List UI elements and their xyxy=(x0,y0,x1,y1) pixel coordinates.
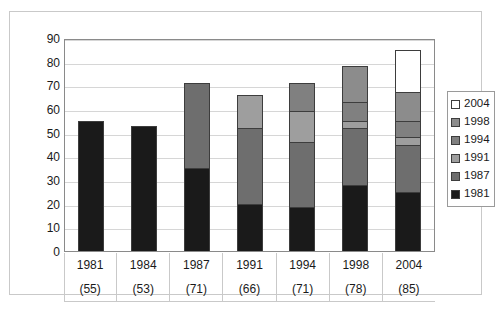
legend-label: 1994 xyxy=(464,134,490,146)
bar-segment[interactable] xyxy=(184,83,210,168)
bar-segment[interactable] xyxy=(237,128,263,204)
x-table-bottom-border xyxy=(64,301,435,302)
bar-cell xyxy=(223,40,276,251)
bar-segment[interactable] xyxy=(131,126,157,251)
x-axis-label: 1994 xyxy=(277,253,329,277)
x-axis-label: 1998 xyxy=(330,253,382,277)
bar-segment[interactable] xyxy=(289,142,315,207)
x-axis-total: (53) xyxy=(117,277,169,301)
bar-segment[interactable] xyxy=(395,92,421,120)
chart-frame: 9080706050403020100 1981(55)1984(53)1987… xyxy=(9,11,482,295)
y-axis-tick: 60 xyxy=(47,103,60,117)
bar-segment[interactable] xyxy=(289,111,315,142)
x-axis-cell: 1998(78) xyxy=(330,253,383,301)
bar-cell xyxy=(329,40,382,251)
bar-cell xyxy=(118,40,171,251)
legend-item[interactable]: 1994 xyxy=(451,132,491,148)
bar-segment[interactable] xyxy=(237,204,263,251)
chart-legend: 200419981994199119871981 xyxy=(447,91,495,207)
legend-label: 1991 xyxy=(464,152,490,164)
legend-item[interactable]: 1987 xyxy=(451,168,491,184)
stacked-bar[interactable] xyxy=(78,121,104,251)
legend-label: 1998 xyxy=(464,116,490,128)
stacked-bar[interactable] xyxy=(237,95,263,251)
y-axis-tick: 80 xyxy=(47,56,60,70)
y-axis-tick: 50 xyxy=(47,127,60,141)
bar-segment[interactable] xyxy=(342,121,368,128)
x-axis-label: 1984 xyxy=(117,253,169,277)
x-axis-cell: 1984(53) xyxy=(117,253,170,301)
legend-label: 1981 xyxy=(464,188,490,200)
x-axis-label: 1991 xyxy=(223,253,275,277)
stacked-bar[interactable] xyxy=(131,126,157,251)
x-axis-total: (78) xyxy=(330,277,382,301)
x-axis-table: 1981(55)1984(53)1987(71)1991(66)1994(71)… xyxy=(64,253,435,301)
bar-segment[interactable] xyxy=(395,121,421,138)
legend-swatch-icon xyxy=(451,172,460,181)
stacked-bar[interactable] xyxy=(395,50,421,251)
x-axis-total: (85) xyxy=(383,277,435,301)
y-axis-tick: 30 xyxy=(47,174,60,188)
y-axis-tick: 70 xyxy=(47,79,60,93)
stacked-bar[interactable] xyxy=(184,83,210,251)
bar-segment[interactable] xyxy=(342,185,368,251)
x-axis-cell: 1987(71) xyxy=(170,253,223,301)
y-axis-tick: 20 xyxy=(47,198,60,212)
bar-cell xyxy=(381,40,434,251)
bar-cell xyxy=(276,40,329,251)
legend-label: 1987 xyxy=(464,170,490,182)
x-axis-label: 2004 xyxy=(383,253,435,277)
legend-label: 2004 xyxy=(464,98,490,110)
legend-swatch-icon xyxy=(451,154,460,163)
bar-segment[interactable] xyxy=(342,102,368,121)
legend-swatch-icon xyxy=(451,136,460,145)
x-axis-total: (66) xyxy=(223,277,275,301)
legend-item[interactable]: 2004 xyxy=(451,96,491,112)
bar-segment[interactable] xyxy=(395,192,421,251)
x-axis-total: (71) xyxy=(170,277,222,301)
bar-segment[interactable] xyxy=(289,83,315,111)
y-axis-tick: 40 xyxy=(47,150,60,164)
plot-area xyxy=(64,39,435,252)
legend-swatch-icon xyxy=(451,190,460,199)
bar-cell xyxy=(65,40,118,251)
bar-group xyxy=(65,40,434,251)
x-axis-label: 1981 xyxy=(64,253,116,277)
bar-cell xyxy=(170,40,223,251)
legend-swatch-icon xyxy=(451,118,460,127)
x-axis-cell: 1994(71) xyxy=(277,253,330,301)
legend-item[interactable]: 1998 xyxy=(451,114,491,130)
y-axis-tick: 10 xyxy=(47,221,60,235)
x-axis-cell: 1991(66) xyxy=(223,253,276,301)
y-axis-tick: 0 xyxy=(53,245,60,259)
bar-segment[interactable] xyxy=(184,168,210,251)
legend-item[interactable]: 1991 xyxy=(451,150,491,166)
stacked-bar[interactable] xyxy=(289,83,315,251)
x-axis-total: (55) xyxy=(64,277,116,301)
bar-segment[interactable] xyxy=(78,121,104,251)
bar-segment[interactable] xyxy=(342,66,368,102)
x-axis-total: (71) xyxy=(277,277,329,301)
bar-segment[interactable] xyxy=(395,50,421,93)
legend-swatch-icon xyxy=(451,100,460,109)
x-axis-label: 1987 xyxy=(170,253,222,277)
legend-item[interactable]: 1981 xyxy=(451,186,491,202)
stacked-bar[interactable] xyxy=(342,66,368,251)
bar-segment[interactable] xyxy=(395,145,421,192)
bar-segment[interactable] xyxy=(237,95,263,128)
x-axis-cell: 1981(55) xyxy=(64,253,117,301)
bar-segment[interactable] xyxy=(342,128,368,185)
y-axis-tick: 90 xyxy=(47,32,60,46)
bar-segment[interactable] xyxy=(395,137,421,144)
bar-segment[interactable] xyxy=(289,207,315,251)
y-axis: 9080706050403020100 xyxy=(28,39,60,252)
x-axis-cell: 2004(85) xyxy=(383,253,435,301)
